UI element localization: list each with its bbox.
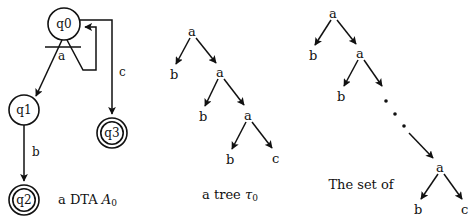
- caption-tree-set-line-2: trees accepted: [306, 221, 416, 222]
- state-label-q0: q0: [52, 18, 76, 30]
- caption-tree-example-subscript: 0: [252, 193, 258, 203]
- caption-automaton-symbol: A: [102, 192, 111, 207]
- tree-edge: [364, 60, 382, 86]
- caption-automaton-subscript: 0: [111, 198, 117, 208]
- transition-label-b: b: [32, 146, 40, 158]
- tree-edge: [444, 174, 462, 199]
- tree-set-node-label: a: [436, 161, 444, 174]
- tree-node-label: c: [272, 152, 279, 165]
- tree-edge: [176, 38, 190, 64]
- transition-label-c: c: [119, 66, 126, 78]
- tree-node-label: b: [170, 68, 178, 81]
- tree-edge: [337, 20, 356, 44]
- tree-set-node-label: b: [337, 90, 345, 103]
- caption-tree-example-text: a tree: [202, 187, 245, 202]
- tree-edge: [252, 122, 272, 148]
- state-label-q3: q3: [100, 127, 124, 139]
- tree-edge: [344, 60, 358, 86]
- tree-node-label: a: [188, 25, 196, 38]
- tree-edge: [205, 79, 218, 106]
- ellipsis-dot: [384, 99, 388, 103]
- tree-edge: [232, 122, 246, 149]
- tree-set-ellipsis: [384, 99, 406, 128]
- state-label-q1: q1: [12, 104, 36, 116]
- tree-node-label: a: [216, 66, 224, 79]
- tree-set-node-label: c: [461, 203, 468, 216]
- ellipsis-dot: [393, 112, 397, 116]
- tree-example-edges: [176, 38, 272, 149]
- tree-edge: [421, 174, 438, 199]
- tree-set-node-label: b: [309, 49, 317, 62]
- tree-node-label: b: [199, 110, 207, 123]
- caption-tree-set: The set of trees accepted by A0: [306, 152, 416, 222]
- tree-node-label: a: [244, 109, 252, 122]
- caption-tree-example: a tree τ0: [180, 188, 280, 203]
- caption-automaton: a DTA A0: [58, 193, 150, 208]
- tree-set-node-label: a: [329, 7, 337, 20]
- caption-tree-set-line-1: The set of: [306, 178, 416, 191]
- transition-a-right-branch-loop: [67, 27, 96, 70]
- tree-edge: [315, 20, 331, 45]
- tree-set-node-label: a: [356, 47, 364, 60]
- tree-edge: [224, 79, 244, 105]
- figure-dta-and-trees: q0 q1 q2 q3 a b c a DTA A0 a b a b a b c…: [0, 0, 469, 222]
- tree-node-label: b: [226, 153, 234, 166]
- state-label-q2: q2: [12, 194, 36, 206]
- caption-automaton-text: a DTA: [58, 192, 102, 207]
- ellipsis-dot: [402, 124, 406, 128]
- tree-edge: [196, 38, 216, 63]
- transition-label-a: a: [58, 50, 65, 62]
